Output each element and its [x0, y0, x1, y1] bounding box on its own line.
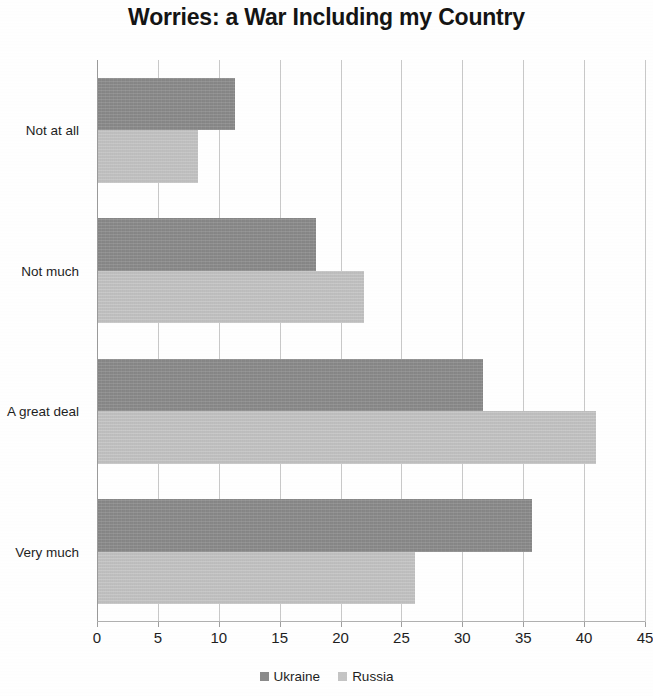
y-axis-category-labels: Not at allNot muchA great dealVery much	[0, 60, 88, 622]
x-axis-tick-label: 15	[271, 629, 288, 646]
gridline	[645, 60, 646, 622]
bar-texture	[97, 78, 235, 131]
category-label-not-much: Not much	[0, 263, 88, 278]
bar-russia-not-at-all	[97, 130, 198, 183]
category-label-a-great-deal: A great deal	[0, 404, 88, 419]
x-axis-tick-label: 0	[93, 629, 101, 646]
chart-title: Worries: a War Including my Country	[0, 4, 653, 31]
tick-mark	[158, 622, 159, 627]
bar-ukraine-a-great-deal	[97, 359, 483, 412]
tick-mark	[462, 622, 463, 627]
legend-item-ukraine[interactable]: Ukraine	[260, 669, 321, 684]
bar-russia-not-much	[97, 271, 364, 324]
category-label-very-much: Very much	[0, 544, 88, 559]
x-axis-tick-label: 25	[393, 629, 410, 646]
legend-label: Russia	[352, 669, 393, 684]
bar-russia-a-great-deal	[97, 411, 596, 464]
gridline	[584, 60, 585, 622]
legend-swatch-icon	[338, 672, 347, 681]
x-axis-tick-label: 10	[210, 629, 227, 646]
tick-mark	[97, 622, 98, 627]
plot-area	[97, 60, 645, 622]
y-axis-line	[97, 60, 98, 622]
legend-swatch-icon	[260, 672, 269, 681]
tick-mark	[401, 622, 402, 627]
bar-texture	[97, 271, 364, 324]
tick-mark	[219, 622, 220, 627]
category-label-not-at-all: Not at all	[0, 123, 88, 138]
bar-russia-very-much	[97, 552, 415, 605]
x-axis-tick-label: 5	[154, 629, 162, 646]
x-axis-line	[97, 621, 645, 622]
tick-mark	[280, 622, 281, 627]
bar-ukraine-very-much	[97, 499, 532, 552]
tick-mark	[341, 622, 342, 627]
bar-texture	[97, 552, 415, 605]
bar-ukraine-not-much	[97, 218, 316, 271]
chart-legend: UkraineRussia	[0, 669, 653, 684]
tick-mark	[645, 622, 646, 627]
x-axis-tick-labels: 051015202530354045	[0, 629, 653, 653]
bar-texture	[97, 411, 596, 464]
bar-ukraine-not-at-all	[97, 78, 235, 131]
x-axis-tick-label: 30	[454, 629, 471, 646]
x-axis-tick-label: 20	[332, 629, 349, 646]
x-axis-tick-label: 40	[576, 629, 593, 646]
x-axis-tick-label: 35	[515, 629, 532, 646]
tick-mark	[523, 622, 524, 627]
bar-texture	[97, 359, 483, 412]
tick-mark	[584, 622, 585, 627]
bar-texture	[97, 499, 532, 552]
bar-texture	[97, 130, 198, 183]
legend-item-russia[interactable]: Russia	[338, 669, 393, 684]
x-axis-tick-label: 45	[637, 629, 653, 646]
legend-label: Ukraine	[274, 669, 321, 684]
bar-texture	[97, 218, 316, 271]
